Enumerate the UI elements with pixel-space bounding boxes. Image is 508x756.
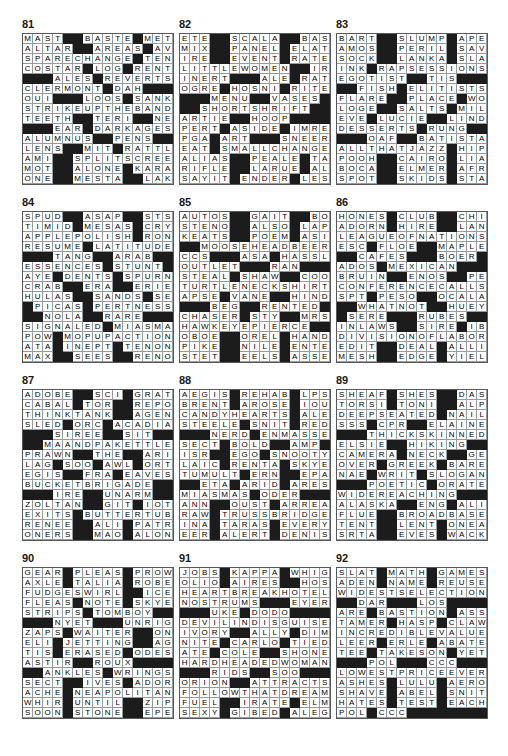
letter-cell: A <box>387 648 397 658</box>
letter-cell: D <box>320 292 330 302</box>
letter-cell: E <box>427 420 437 430</box>
block-cell <box>387 154 397 164</box>
letter-cell: L <box>427 342 437 352</box>
letter-cell: N <box>437 648 447 658</box>
letter-cell: H <box>133 84 143 94</box>
letter-cell: E <box>123 440 133 450</box>
letter-cell: S <box>270 400 280 410</box>
letter-cell: S <box>220 232 230 242</box>
letter-cell: R <box>200 530 210 540</box>
letter-cell: P <box>190 292 200 302</box>
letter-cell: E <box>347 648 357 658</box>
letter-cell: S <box>437 598 447 608</box>
letter-cell: E <box>53 520 63 530</box>
letter-cell: A <box>240 638 250 648</box>
letter-cell: E <box>300 520 310 530</box>
letter-cell: L <box>220 420 230 430</box>
letter-cell: R <box>103 44 113 54</box>
letter-cell: R <box>367 628 377 638</box>
letter-cell: M <box>260 64 270 74</box>
block-cell <box>320 104 330 114</box>
letter-cell: P <box>377 292 387 302</box>
letter-cell: F <box>180 698 190 708</box>
letter-cell: I <box>33 222 43 232</box>
letter-cell: O <box>347 400 357 410</box>
letter-cell: L <box>260 222 270 232</box>
letter-cell: O <box>180 332 190 342</box>
letter-cell: B <box>83 34 93 44</box>
block-cell <box>250 134 260 144</box>
block-cell <box>347 658 357 668</box>
letter-cell: E <box>63 232 73 242</box>
letter-cell: A <box>397 490 407 500</box>
letter-cell: T <box>200 212 210 222</box>
letter-cell: P <box>310 470 320 480</box>
letter-cell: A <box>357 688 367 698</box>
block-cell <box>387 352 397 362</box>
letter-cell: A <box>250 34 260 44</box>
block-cell <box>270 648 280 658</box>
block-cell <box>220 708 230 718</box>
letter-cell: A <box>367 530 377 540</box>
letter-cell: E <box>43 420 53 430</box>
letter-cell: E <box>427 352 437 362</box>
letter-cell: A <box>143 104 153 114</box>
letter-cell: L <box>33 420 43 430</box>
letter-cell: S <box>270 352 280 362</box>
block-cell <box>240 154 250 164</box>
puzzle-number: 85 <box>179 196 331 209</box>
letter-cell: L <box>477 104 487 114</box>
letter-cell: I <box>163 450 173 460</box>
letter-cell: U <box>240 94 250 104</box>
letter-cell: A <box>200 312 210 322</box>
letter-cell: E <box>240 174 250 184</box>
block-cell <box>290 410 300 420</box>
letter-cell: T <box>387 588 397 598</box>
letter-cell: K <box>270 282 280 292</box>
letter-cell: L <box>437 44 447 54</box>
letter-cell: L <box>347 94 357 104</box>
letter-cell: L <box>250 144 260 154</box>
letter-cell: A <box>180 500 190 510</box>
block-cell <box>63 154 73 164</box>
letter-cell: I <box>367 440 377 450</box>
letter-cell: E <box>367 618 377 628</box>
letter-cell: I <box>427 400 437 410</box>
letter-cell: M <box>83 222 93 232</box>
block-cell <box>73 510 83 520</box>
block-cell <box>387 688 397 698</box>
letter-cell: E <box>33 114 43 124</box>
block-cell <box>220 252 230 262</box>
letter-cell: F <box>387 134 397 144</box>
letter-cell: A <box>43 568 53 578</box>
letter-cell: S <box>133 598 143 608</box>
block-cell <box>143 114 153 124</box>
letter-cell: O <box>200 628 210 638</box>
block-cell <box>397 134 407 144</box>
letter-cell: E <box>53 262 63 272</box>
crossword-grid: ETESCALABASMIXPANELELATIREEVENTRATELITTL… <box>179 33 331 185</box>
block-cell <box>143 658 153 668</box>
letter-cell: E <box>377 628 387 638</box>
letter-cell: R <box>73 648 83 658</box>
letter-cell: S <box>320 678 330 688</box>
letter-cell: O <box>240 84 250 94</box>
letter-cell: Y <box>230 322 240 332</box>
letter-cell: A <box>103 440 113 450</box>
letter-cell: N <box>357 520 367 530</box>
letter-cell: N <box>43 144 53 154</box>
puzzle-82: 82ETESCALABASMIXPANELELATIREEVENTRATELIT… <box>179 18 331 185</box>
letter-cell: S <box>180 272 190 282</box>
letter-cell: S <box>250 598 260 608</box>
letter-cell: A <box>180 292 190 302</box>
letter-cell: A <box>250 222 260 232</box>
letter-cell: I <box>467 410 477 420</box>
letter-cell: A <box>387 450 397 460</box>
letter-cell: G <box>357 104 367 114</box>
letter-cell: C <box>467 698 477 708</box>
letter-cell: N <box>113 292 123 302</box>
block-cell <box>280 34 290 44</box>
letter-cell: T <box>190 352 200 362</box>
letter-cell: P <box>250 232 260 242</box>
block-cell <box>143 292 153 302</box>
